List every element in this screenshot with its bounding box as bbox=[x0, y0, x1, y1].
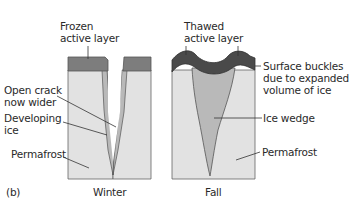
label-fall-permafrost: Permafrost bbox=[262, 146, 317, 158]
label-frozen-active-layer: Frozen active layer bbox=[60, 20, 119, 44]
panel-label: (b) bbox=[6, 186, 20, 198]
label-ice-wedge: Ice wedge bbox=[263, 112, 315, 124]
label-text: ice bbox=[4, 124, 61, 136]
label-text: Open crack bbox=[4, 84, 62, 96]
label-text: Thawed bbox=[184, 20, 243, 32]
label-text: Surface buckles bbox=[263, 60, 349, 72]
label-text: due to expanded bbox=[263, 72, 349, 84]
label-surface-buckles: Surface buckles due to expanded volume o… bbox=[263, 60, 349, 96]
winter-block bbox=[68, 56, 151, 179]
label-winter-permafrost: Permafrost bbox=[11, 148, 66, 160]
fall-block bbox=[172, 51, 255, 179]
winter-frozen-active-layer-right bbox=[123, 57, 151, 71]
label-text: now wider bbox=[4, 96, 62, 108]
caption-winter: Winter bbox=[93, 186, 126, 198]
label-text: Frozen bbox=[60, 20, 119, 32]
label-text: active layer bbox=[184, 32, 243, 44]
caption-fall: Fall bbox=[205, 186, 222, 198]
label-open-crack: Open crack now wider bbox=[4, 84, 62, 108]
label-text: active layer bbox=[60, 32, 119, 44]
label-text: Developing bbox=[4, 112, 61, 124]
label-text: volume of ice bbox=[263, 84, 349, 96]
label-developing-ice: Developing ice bbox=[4, 112, 61, 136]
winter-frozen-active-layer-left bbox=[68, 57, 108, 71]
label-thawed-active-layer: Thawed active layer bbox=[184, 20, 243, 44]
